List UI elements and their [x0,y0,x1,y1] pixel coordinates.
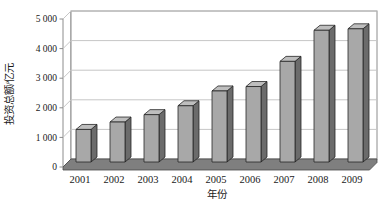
bar-2006 [246,82,267,162]
bar-2001 [76,124,97,162]
bar-front-face [110,122,125,162]
y-tick-label: 5 000 [36,14,58,24]
bar-2008 [314,25,335,162]
y-axis-ticks [60,19,64,167]
bar-side-face [193,101,199,162]
bar-front-face [246,87,261,162]
bar-front-face [314,30,329,162]
bar-side-face [227,86,233,162]
bar-front-face [212,91,227,162]
bar-side-face [159,110,165,162]
x-axis-title: 年份 [207,188,228,200]
x-tick-label: 2005 [206,174,227,185]
x-tick-label: 2003 [138,174,159,185]
bar-side-face [125,117,131,162]
bar-front-face [280,61,295,162]
x-tick-label: 2004 [172,174,194,185]
bar-side-face [363,24,369,162]
chart-canvas: 01 0002 0003 0004 0005 000 2001200220032… [0,0,388,210]
bar-2009 [348,24,369,162]
x-tick-label: 2007 [274,174,295,185]
bar-chart-3d: 01 0002 0003 0004 0005 000 2001200220032… [0,0,388,210]
y-axis-title: 投资总额/亿元 [3,62,15,126]
y-axis-tick-labels: 01 0002 0003 0004 0005 000 [36,14,58,172]
bar-2004 [178,101,199,162]
bar-front-face [348,29,363,162]
bar-front-face [144,115,159,162]
x-tick-label: 2006 [240,174,261,185]
x-tick-label: 2008 [308,174,329,185]
bar-front-face [76,129,91,162]
x-tick-label: 2002 [104,174,125,185]
y-tick-label: 4 000 [36,44,58,54]
x-tick-label: 2001 [70,174,91,185]
y-tick-label: 0 [52,162,57,172]
bar-front-face [178,106,193,162]
bar-2003 [144,110,165,162]
bar-side-face [295,56,301,162]
x-axis-tick-labels: 200120022003200420052006200720082009 [70,174,363,185]
bar-side-face [329,25,335,162]
bar-2002 [110,117,131,162]
y-tick-label: 1 000 [36,133,58,143]
y-tick-label: 3 000 [36,73,58,83]
side-wall [63,11,71,167]
bar-side-face [261,82,267,162]
x-tick-label: 2009 [342,174,363,185]
bar-side-face [91,124,97,162]
bar-2005 [212,86,233,162]
bar-2007 [280,56,301,162]
y-tick-label: 2 000 [36,103,58,113]
